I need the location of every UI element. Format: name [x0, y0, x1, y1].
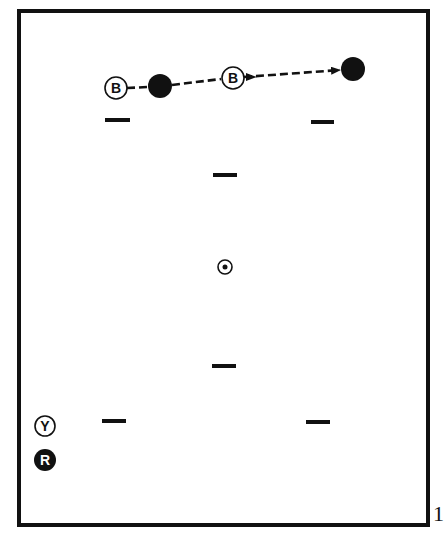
- object-ball-1: [148, 74, 172, 98]
- spot-marker: [218, 260, 232, 274]
- cue-ball-start: B: [105, 77, 127, 99]
- dashed-path-segment: [244, 70, 340, 77]
- solid-ball-icon: [341, 57, 365, 81]
- page-number-label: 1: [433, 503, 444, 525]
- balls: BBYR: [34, 57, 365, 471]
- ball-label: R: [40, 452, 50, 468]
- table-markers: [102, 120, 334, 422]
- yellow-ball: Y: [35, 416, 55, 436]
- object-ball-2: [341, 57, 365, 81]
- cue-ball-contact: B: [222, 67, 244, 89]
- dashed-path-segment: [127, 87, 148, 88]
- arrow-right-icon: [246, 73, 257, 81]
- shot-diagram: BBYR: [0, 0, 444, 535]
- dashed-path-segment: [172, 79, 221, 85]
- ball-label: Y: [40, 418, 50, 434]
- spot-dot-icon: [223, 265, 228, 270]
- ball-label: B: [111, 80, 121, 96]
- solid-ball-icon: [148, 74, 172, 98]
- red-ball: R: [34, 449, 56, 471]
- ball-label: B: [228, 70, 238, 86]
